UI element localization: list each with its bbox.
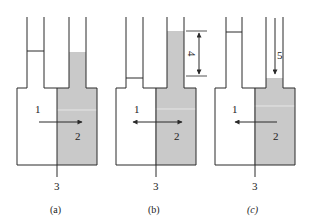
label-1: 1 — [35, 103, 41, 115]
label-1: 1 — [232, 103, 238, 115]
label-1: 1 — [134, 103, 140, 115]
label-2: 2 — [273, 130, 279, 142]
caption-c: (c) — [247, 204, 259, 216]
label-5: 5 — [277, 49, 283, 61]
caption-b: (b) — [148, 204, 160, 216]
panel-b: 4 1 2 3 (b) — [116, 17, 207, 216]
panel-c: 5 1 2 3 (c) — [215, 17, 295, 216]
label-2: 2 — [174, 130, 180, 142]
osmosis-diagram: 1 2 3 (a) 4 1 2 3 (b) 5 — [0, 0, 309, 223]
label-3: 3 — [153, 180, 159, 192]
panel-a: 1 2 3 (a) — [17, 17, 97, 216]
label-3: 3 — [54, 180, 60, 192]
solution-fill — [57, 52, 97, 165]
label-3: 3 — [252, 180, 258, 192]
height-dimension: 4 — [186, 31, 207, 76]
label-2: 2 — [75, 130, 81, 142]
caption-a: (a) — [50, 204, 61, 216]
label-4: 4 — [186, 51, 198, 57]
